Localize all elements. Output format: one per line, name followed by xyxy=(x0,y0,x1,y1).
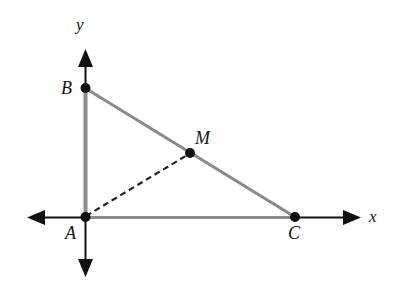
x-axis-arrow-right-icon xyxy=(343,210,361,225)
point-dot-c xyxy=(290,212,300,222)
point-label-c: C xyxy=(288,224,300,242)
point-dot-a xyxy=(81,212,91,222)
point-label-a: A xyxy=(65,224,76,242)
point-label-m: M xyxy=(195,129,210,147)
geometry-figure: y x B A C M xyxy=(0,0,402,286)
x-axis-label: x xyxy=(369,208,377,225)
y-axis-label: y xyxy=(76,16,84,33)
y-axis-arrow-down-icon xyxy=(78,259,93,277)
axes-group xyxy=(27,49,361,277)
y-axis-arrow-up-icon xyxy=(78,49,93,67)
point-label-b: B xyxy=(61,79,72,97)
point-dot-b xyxy=(81,83,91,93)
x-axis-arrow-left-icon xyxy=(27,210,45,225)
median-segment-am xyxy=(86,154,189,216)
point-dot-m xyxy=(185,148,195,158)
